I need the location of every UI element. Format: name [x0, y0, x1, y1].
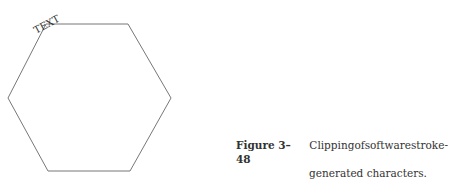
figure-label: Figure 3–48: [236, 138, 301, 166]
caption-word: stroke-: [411, 138, 448, 166]
clipping-hexagon: [8, 24, 171, 171]
caption-line-2: generated characters.: [236, 166, 448, 180]
figure-caption: Figure 3–48 Clipping of software stroke-…: [236, 138, 448, 180]
clipped-stroke-text: TEXT: [32, 13, 62, 36]
caption-word: of: [354, 138, 364, 166]
caption-word: software: [365, 138, 411, 166]
caption-word: Clipping: [309, 138, 354, 166]
